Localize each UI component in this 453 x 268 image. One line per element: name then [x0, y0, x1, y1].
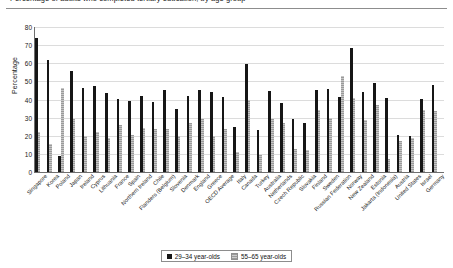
bar-light [329, 118, 332, 172]
bar-group [233, 27, 245, 172]
bar-light [318, 110, 321, 172]
bar-group [128, 27, 140, 172]
legend-item-dark: 29–34 year-olds [167, 253, 220, 260]
bar-group [280, 27, 292, 172]
bar-group [362, 27, 374, 172]
bar-group [432, 27, 444, 172]
y-tick-label: 20 [25, 132, 32, 139]
bar-group [70, 27, 82, 172]
y-tick-label: 30 [25, 114, 32, 121]
bar-light [119, 125, 122, 172]
bar-group [373, 27, 385, 172]
bar-light [166, 129, 169, 173]
bar-series-container [35, 27, 444, 172]
bar-group [163, 27, 175, 172]
y-tick-label: 40 [25, 96, 32, 103]
bar-group [292, 27, 304, 172]
bar-light [399, 141, 402, 172]
legend-swatch-dark-icon [167, 254, 172, 259]
bar-light [61, 88, 64, 172]
bar-light [189, 123, 192, 172]
bar-light [108, 138, 111, 172]
y-axis-ticks: 01020304050607080 [12, 23, 32, 176]
y-tick-label: 50 [25, 78, 32, 85]
bar-group [327, 27, 339, 172]
bar-group [210, 27, 222, 172]
legend-label-light: 55–65 year-olds [241, 253, 286, 260]
bar-light [376, 105, 379, 172]
bar-group [198, 27, 210, 172]
title-divider [6, 8, 447, 9]
bar-light [306, 150, 309, 172]
x-axis-labels: SingaporeKoreaPolandJapanIrelandCyprusLi… [34, 173, 443, 235]
chart-legend: 29–34 year-olds 55–65 year-olds [0, 250, 453, 262]
bar-light [294, 149, 297, 172]
y-tick-label: 80 [25, 24, 32, 31]
bar-group [245, 27, 257, 172]
bar-light [271, 119, 274, 172]
chart-figure: Percentage of adults who completed terti… [0, 0, 453, 268]
bar-group [222, 27, 234, 172]
bar-light [73, 119, 76, 172]
legend-swatch-light-icon [231, 253, 238, 260]
bar-group [385, 27, 397, 172]
bar-light [364, 120, 367, 172]
bar-light [201, 119, 204, 172]
bar-light [224, 129, 227, 173]
bar-light [131, 135, 134, 172]
bar-group [58, 27, 70, 172]
bar-light [213, 136, 216, 172]
bar-light [96, 132, 99, 172]
bar-light [248, 100, 251, 172]
bar-light [423, 110, 426, 172]
bar-group [35, 27, 47, 172]
legend-label-dark: 29–34 year-olds [175, 253, 220, 260]
bar-group [303, 27, 315, 172]
y-tick-label: 70 [25, 42, 32, 49]
legend-item-light: 55–65 year-olds [231, 253, 286, 260]
bar-light [341, 76, 344, 172]
y-tick-label: 10 [25, 150, 32, 157]
bar-light [353, 98, 356, 172]
bar-light [411, 138, 414, 172]
x-tick-label: Singapore [25, 173, 48, 196]
bar-group [187, 27, 199, 172]
bar-group [47, 27, 59, 172]
legend-box: 29–34 year-olds 55–65 year-olds [161, 250, 292, 262]
bar-light [259, 155, 262, 172]
bar-light [38, 132, 41, 172]
bar-light [143, 128, 146, 172]
y-tick-label: 60 [25, 60, 32, 67]
bar-group [105, 27, 117, 172]
bar-group [350, 27, 362, 172]
bar-light [434, 111, 437, 172]
y-tick-label: 0 [28, 169, 32, 176]
plot-area [34, 27, 444, 173]
bar-group [257, 27, 269, 172]
bar-group [117, 27, 129, 172]
bar-light [49, 144, 52, 172]
bar-light [84, 136, 87, 172]
bar-group [82, 27, 94, 172]
bar-group [409, 27, 421, 172]
bar-group [93, 27, 105, 172]
bar-light [154, 129, 157, 173]
chart-title: Percentage of adults who completed terti… [10, 0, 246, 3]
bar-group [315, 27, 327, 172]
bar-light [178, 136, 181, 172]
bar-group [152, 27, 164, 172]
bar-light [388, 159, 391, 172]
bar-light [236, 152, 239, 172]
bar-group [420, 27, 432, 172]
bar-group [175, 27, 187, 172]
bar-group [397, 27, 409, 172]
bar-group [140, 27, 152, 172]
bar-group [268, 27, 280, 172]
bar-group [338, 27, 350, 172]
bar-light [283, 123, 286, 172]
